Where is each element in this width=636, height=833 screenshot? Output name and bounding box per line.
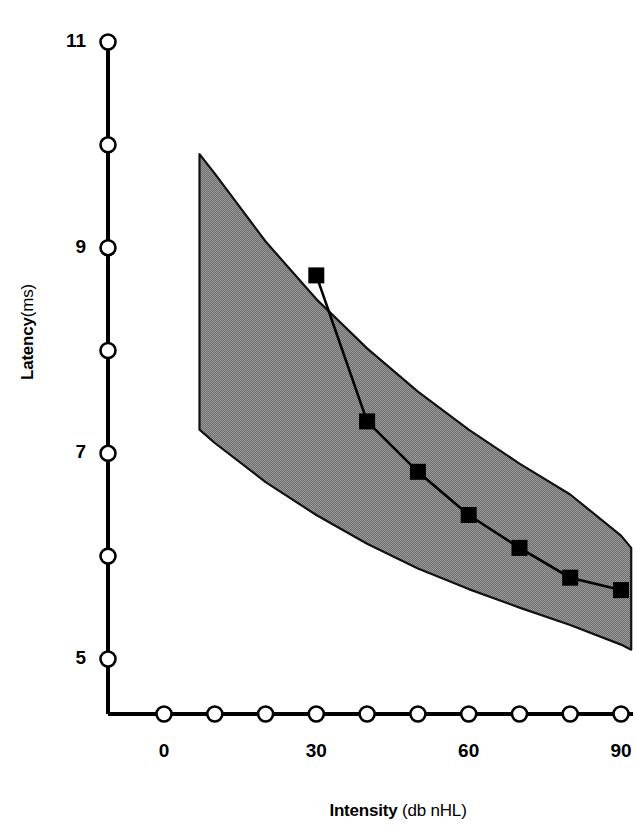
y-axis-title-bold: Latency xyxy=(18,317,37,380)
y-tick-marker xyxy=(101,343,116,358)
x-axis-title: Intensity (db nHL) xyxy=(168,801,628,821)
latency-intensity-chart: Latency(ms) Intensity (db nHL) 579110306… xyxy=(0,0,636,833)
x-tick-marker xyxy=(512,707,527,722)
x-tick-marker xyxy=(207,707,222,722)
data-point-marker xyxy=(410,464,426,480)
data-point-marker xyxy=(562,570,578,586)
data-point-marker xyxy=(308,267,324,283)
y-tick-label: 5 xyxy=(46,647,86,669)
x-tick-marker xyxy=(614,707,629,722)
y-tick-marker xyxy=(101,35,116,50)
y-tick-marker xyxy=(101,137,116,152)
x-tick-marker xyxy=(563,707,578,722)
x-tick-marker xyxy=(258,707,273,722)
y-tick-label: 9 xyxy=(46,236,86,258)
x-tick-marker xyxy=(360,707,375,722)
x-tick-marker xyxy=(461,707,476,722)
data-point-marker xyxy=(512,540,528,556)
y-tick-marker xyxy=(101,549,116,564)
y-axis-title: Latency(ms) xyxy=(18,232,38,432)
x-tick-label: 30 xyxy=(294,740,338,762)
x-tick-marker xyxy=(157,707,172,722)
y-tick-label: 11 xyxy=(46,30,86,52)
x-axis-title-bold: Intensity xyxy=(329,801,397,820)
x-tick-marker xyxy=(309,707,324,722)
y-tick-marker xyxy=(101,446,116,461)
y-tick-marker xyxy=(101,240,116,255)
x-tick-marker xyxy=(410,707,425,722)
x-tick-label: 90 xyxy=(599,740,636,762)
y-tick-marker xyxy=(101,652,116,667)
y-axis-title-unit: (ms) xyxy=(18,284,37,317)
plot-area xyxy=(0,0,636,833)
x-tick-label: 60 xyxy=(447,740,491,762)
data-point-marker xyxy=(359,413,375,429)
data-point-marker xyxy=(461,507,477,523)
x-axis-title-unit: (db nHL) xyxy=(402,801,467,820)
data-point-marker xyxy=(613,582,629,598)
x-tick-label: 0 xyxy=(142,740,186,762)
y-tick-label: 7 xyxy=(46,441,86,463)
